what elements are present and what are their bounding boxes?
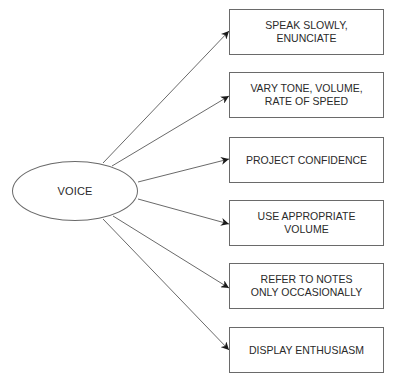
arrow-to-node-3	[138, 159, 229, 182]
node-label: VARY TONE, VOLUME, RATE OF SPEED	[250, 82, 362, 108]
node-label: USE APPROPRIATE VOLUME	[258, 210, 356, 236]
node-project-confidence: PROJECT CONFIDENCE	[229, 137, 384, 183]
node-refer-to-notes: REFER TO NOTES ONLY OCCASIONALLY	[229, 263, 384, 309]
center-node-label: VOICE	[57, 185, 92, 197]
arrow-to-node-1	[103, 31, 229, 163]
node-display-enthusiasm: DISPLAY ENTHUSIASM	[229, 327, 384, 373]
node-label: DISPLAY ENTHUSIASM	[249, 344, 364, 357]
arrow-to-node-2	[112, 96, 229, 166]
arrow-to-node-4	[138, 199, 229, 224]
node-vary-tone: VARY TONE, VOLUME, RATE OF SPEED	[229, 72, 384, 118]
arrow-to-node-5	[113, 216, 229, 288]
arrow-to-node-6	[103, 219, 229, 350]
node-label: PROJECT CONFIDENCE	[246, 154, 367, 167]
node-use-appropriate-volume: USE APPROPRIATE VOLUME	[229, 200, 384, 246]
center-node-voice: VOICE	[12, 161, 138, 221]
node-label: SPEAK SLOWLY, ENUNCIATE	[265, 19, 347, 45]
node-speak-slowly: SPEAK SLOWLY, ENUNCIATE	[229, 9, 384, 55]
node-label: REFER TO NOTES ONLY OCCASIONALLY	[251, 273, 362, 299]
